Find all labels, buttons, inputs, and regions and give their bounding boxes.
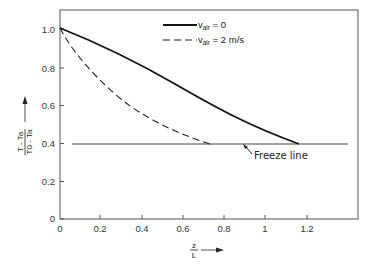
series-vair-0 xyxy=(60,28,299,144)
y-tick-label: 0 xyxy=(50,213,55,224)
y-axis-label-denominator: T0 - Ta xyxy=(25,129,34,154)
legend-dashed-label: vair = 2 m/s xyxy=(198,34,244,46)
x-axis-label-denominator: L xyxy=(192,251,197,260)
x-tick-label: 1.2 xyxy=(300,223,313,234)
y-tick-label: 0.8 xyxy=(42,63,55,74)
y-tick-label: 0.6 xyxy=(42,100,55,111)
x-axis-label-numerator: z xyxy=(192,241,196,250)
series-vair-2 xyxy=(60,28,210,144)
y-axis-label-numerator: T - Ta xyxy=(16,131,25,152)
legend-solid-label: vair = 0 xyxy=(198,19,226,31)
y-axis xyxy=(60,29,64,219)
arrow-up-icon xyxy=(23,96,28,104)
y-tick-label: 0.4 xyxy=(42,138,55,149)
x-tick-label: 0.8 xyxy=(217,223,230,234)
x-tick-label: 0.6 xyxy=(176,223,189,234)
x-axis xyxy=(100,215,307,219)
x-tick-label: 0.2 xyxy=(93,223,106,234)
arrow-right-icon xyxy=(216,248,224,253)
x-axis-label: z L xyxy=(190,241,224,260)
freeze-line-label: Freeze line xyxy=(254,150,308,161)
y-tick-label: 0.2 xyxy=(42,176,55,187)
y-tick-label: 1.0 xyxy=(42,24,55,35)
y-axis-label: T - Ta T0 - Ta xyxy=(16,96,34,155)
x-tick-label: 0.4 xyxy=(135,223,148,234)
y-tick-labels: 0 0.2 0.4 0.6 0.8 1.0 xyxy=(42,24,55,224)
legend: vair = 0 vair = 2 m/s xyxy=(163,19,244,46)
x-tick-labels: 0 0.2 0.4 0.6 0.8 1 1.2 xyxy=(57,223,313,234)
freeze-line-annotation: Freeze line xyxy=(243,144,308,161)
x-tick-label: 1 xyxy=(262,223,267,234)
chart: 0 0.2 0.4 0.6 0.8 1.0 0 0.2 0.4 0.6 0.8 … xyxy=(0,0,368,267)
x-tick-label: 0 xyxy=(57,223,62,234)
